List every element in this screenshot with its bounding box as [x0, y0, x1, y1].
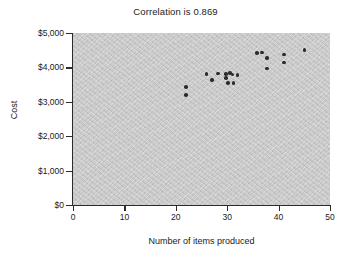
plot-area: [73, 33, 330, 205]
x-axis-line: [72, 205, 331, 206]
x-axis-tick: [73, 206, 74, 211]
y-axis-tick: [66, 67, 72, 68]
x-axis-tick-label: 30: [222, 212, 231, 222]
chart-title: Correlation is 0.869: [0, 6, 351, 17]
data-point: [236, 73, 240, 77]
x-axis-tick-label: 50: [325, 212, 334, 222]
y-axis-tick: [66, 171, 72, 172]
data-point: [282, 61, 286, 65]
scatter-plot-figure: Correlation is 0.869 $0$1,000$2,000$3,00…: [0, 0, 351, 263]
x-axis-tick-label: 20: [171, 212, 180, 222]
x-axis-tick: [330, 206, 331, 211]
y-axis-tick: [66, 102, 72, 103]
data-point: [282, 53, 286, 57]
y-axis-tick-label: $5,000: [38, 28, 64, 38]
y-axis-tick-label: $4,000: [38, 62, 64, 72]
data-point: [255, 51, 259, 55]
data-point: [231, 73, 235, 77]
data-point: [184, 85, 188, 89]
x-axis-tick: [227, 206, 228, 211]
data-point: [303, 48, 307, 52]
plot-background-texture: [73, 33, 330, 205]
data-point: [265, 56, 269, 60]
x-axis-tick-label: 10: [120, 212, 129, 222]
data-point: [265, 67, 269, 71]
data-point: [184, 93, 188, 97]
y-axis-tick-label: $2,000: [38, 131, 64, 141]
x-axis-title: Number of items produced: [73, 236, 330, 246]
y-axis-line: [72, 33, 73, 206]
x-axis-tick-label: 40: [274, 212, 283, 222]
data-point: [232, 81, 236, 85]
y-axis-tick-label: $0: [55, 200, 64, 210]
data-point: [224, 76, 228, 80]
x-axis-tick: [176, 206, 177, 211]
data-point: [226, 81, 230, 85]
y-axis-tick: [66, 136, 72, 137]
y-axis-tick-label: $1,000: [38, 166, 64, 176]
x-axis-tick-label: 0: [71, 212, 76, 222]
x-axis-tick: [279, 206, 280, 211]
y-axis-title: Cost: [9, 80, 19, 140]
y-axis-tick: [66, 205, 72, 206]
data-point: [210, 78, 214, 82]
y-axis-tick-label: $3,000: [38, 97, 64, 107]
data-point: [216, 72, 220, 76]
data-point: [205, 72, 209, 76]
data-point: [260, 51, 264, 55]
y-axis-tick: [66, 33, 72, 34]
x-axis-tick: [124, 206, 125, 211]
